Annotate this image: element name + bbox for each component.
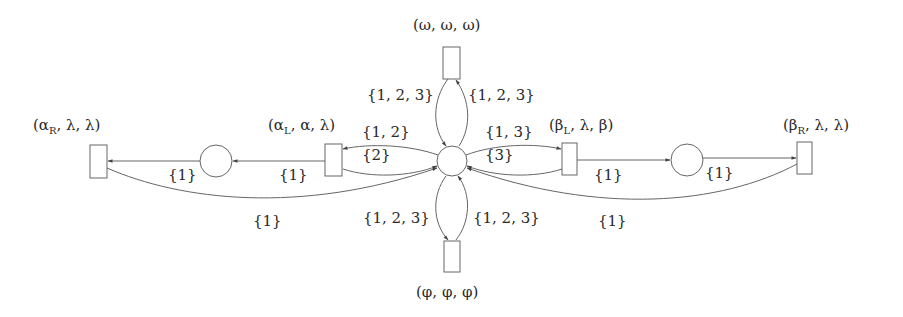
arc-omega-to-center	[436, 79, 448, 146]
place-center	[437, 146, 467, 176]
arc-label-beta-r-to-center: {1}	[598, 214, 627, 229]
arc-label-beta-l-to-center: {3}	[485, 148, 514, 163]
arc-label-alpha-l-to-left-place: {1}	[279, 168, 308, 183]
arc-label-alpha-l-to-center: {2}	[362, 148, 391, 163]
transition-alpha-r	[90, 145, 107, 178]
arc-label-alpha-r-to-center: {1}	[253, 214, 282, 229]
transition-beta-r	[797, 142, 812, 174]
arc-label-right-place-to-beta-r: {1}	[705, 166, 734, 181]
arc-label-center-to-omega: {1, 2, 3}	[468, 88, 535, 103]
label-omega: (ω, ω, ω)	[413, 18, 480, 33]
label-alpha-l: (αL, α, λ)	[268, 118, 335, 136]
label-beta-l: (βL, λ, β)	[549, 118, 613, 136]
arc-label-omega-to-center: {1, 2, 3}	[367, 88, 434, 103]
label-alpha-r: (αR, λ, λ)	[33, 118, 100, 136]
arc-label-left-place-to-alpha-r: {1}	[168, 168, 197, 183]
place-right	[671, 144, 703, 176]
transition-alpha-l	[325, 144, 342, 176]
transition-omega	[443, 47, 460, 79]
arc-label-phi-to-center: {1, 2, 3}	[473, 211, 540, 226]
arc-label-center-to-alpha-l: {1, 2}	[362, 125, 410, 140]
place-left	[200, 145, 232, 177]
arc-label-center-to-phi: {1, 2, 3}	[363, 211, 430, 226]
arc-phi-to-center	[456, 176, 468, 240]
transition-beta-l	[562, 143, 577, 175]
arc-center-to-omega	[456, 80, 468, 146]
arc-alpha-r-to-center	[107, 168, 437, 198]
label-phi: (φ, φ, φ)	[416, 285, 478, 300]
arc-beta-l-to-center	[467, 166, 562, 175]
label-beta-r: (βR, λ, λ)	[783, 118, 849, 136]
arc-beta-r-to-center	[467, 164, 797, 199]
arc-label-center-to-beta-l: {1, 3}	[485, 125, 533, 140]
arc-label-beta-l-to-right-place: {1}	[594, 168, 623, 183]
arc-center-to-phi	[436, 176, 448, 240]
petri-net-diagram	[0, 0, 903, 317]
transition-phi	[444, 241, 460, 272]
arc-alpha-l-to-center	[343, 166, 437, 175]
